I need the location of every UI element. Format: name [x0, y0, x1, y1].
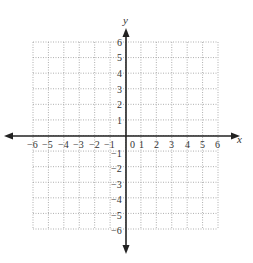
x-axis-label: x	[236, 133, 242, 145]
y-axis-up-arrow-icon	[123, 28, 130, 37]
x-tick-label: −3	[73, 139, 84, 150]
y-tick-label: −6	[111, 225, 122, 236]
x-tick-label: 6	[215, 139, 220, 150]
x-tick-labels-negative: −6 −5 −4 −3 −2 −1	[27, 139, 115, 150]
y-tick-label: −4	[111, 194, 122, 205]
x-tick-label: 5	[200, 139, 205, 150]
y-tick-label: 1	[117, 115, 122, 126]
y-tick-labels-positive: 6 5 4 3 2 1	[117, 37, 122, 126]
x-tick-labels-positive: 1 2 3 4 5 6	[139, 139, 220, 150]
y-tick-labels-negative: −1 −2 −3 −4 −5 −6	[111, 148, 122, 236]
y-tick-label: 3	[117, 84, 122, 95]
x-tick-label: 4	[185, 139, 190, 150]
x-axis-left-arrow-icon	[4, 133, 13, 140]
x-tick-label: −5	[42, 139, 53, 150]
y-tick-label: −5	[111, 210, 122, 221]
x-tick-label: 3	[169, 139, 174, 150]
coordinate-plane: y x −6 −5 −4 −3 −2 −1 0 1 2 3 4 5 6 6 5 …	[0, 0, 253, 263]
x-tick-label: 2	[154, 139, 159, 150]
x-tick-label: −2	[89, 139, 100, 150]
y-axis-label: y	[122, 14, 128, 26]
y-tick-label: 2	[117, 99, 122, 110]
y-tick-label: 6	[117, 37, 122, 48]
x-tick-label: −4	[58, 139, 69, 150]
y-tick-label: −3	[111, 179, 122, 190]
y-axis	[123, 28, 130, 254]
origin-label: 0	[130, 139, 135, 150]
y-tick-label: 4	[117, 68, 122, 79]
y-tick-label: −1	[111, 148, 122, 159]
x-tick-label: −6	[27, 139, 38, 150]
y-tick-label: −2	[111, 163, 122, 174]
y-tick-label: 5	[117, 52, 122, 63]
y-axis-down-arrow-icon	[123, 245, 130, 254]
x-tick-label: 1	[139, 139, 144, 150]
